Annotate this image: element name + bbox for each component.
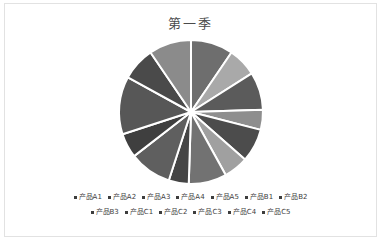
legend-marker-icon — [108, 196, 111, 199]
legend-label: 产品C4 — [233, 209, 256, 216]
legend-label: 产品B1 — [250, 194, 273, 201]
legend-label: 产品C2 — [164, 209, 187, 216]
legend-marker-icon — [262, 211, 265, 214]
pie-chart-svg — [5, 38, 377, 186]
legend-label: 产品A2 — [113, 194, 136, 201]
legend-item[interactable]: 产品A2 — [108, 194, 136, 201]
legend-marker-icon — [279, 196, 282, 199]
legend-marker-icon — [91, 211, 94, 214]
legend-item[interactable]: 产品A1 — [74, 194, 102, 201]
chart-title: 第一季 — [5, 13, 376, 32]
pie-slice-group — [119, 40, 263, 184]
legend-marker-icon — [159, 211, 162, 214]
legend-marker-icon — [142, 196, 145, 199]
legend-marker-icon — [125, 211, 128, 214]
legend-item[interactable]: 产品C3 — [193, 209, 221, 216]
legend-marker-icon — [245, 196, 248, 199]
legend-row: 产品B3产品C1产品C2产品C3产品C4产品C5 — [5, 205, 376, 220]
legend-label: 产品C5 — [267, 209, 290, 216]
legend-item[interactable]: 产品A3 — [142, 194, 170, 201]
legend-marker-icon — [74, 196, 77, 199]
legend-label: 产品C1 — [130, 209, 153, 216]
chart-frame: 第一季 产品A1产品A2产品A3产品A4产品A5产品B1产品B2 产品B3产品C… — [4, 3, 377, 237]
legend-item[interactable]: 产品A5 — [211, 194, 239, 201]
legend-item[interactable]: 产品B1 — [245, 194, 273, 201]
legend-item[interactable]: 产品C4 — [228, 209, 256, 216]
legend-marker-icon — [228, 211, 231, 214]
legend-marker-icon — [211, 196, 214, 199]
pie-chart-area — [5, 38, 376, 186]
legend-item[interactable]: 产品C5 — [262, 209, 290, 216]
legend-item[interactable]: 产品C1 — [125, 209, 153, 216]
legend-label: 产品C3 — [198, 209, 221, 216]
chart-legend: 产品A1产品A2产品A3产品A4产品A5产品B1产品B2 产品B3产品C1产品C… — [5, 190, 376, 220]
legend-item[interactable]: 产品C2 — [159, 209, 187, 216]
legend-item[interactable]: 产品B3 — [91, 209, 119, 216]
legend-marker-icon — [176, 196, 179, 199]
legend-label: 产品A3 — [147, 194, 170, 201]
legend-label: 产品B2 — [284, 194, 307, 201]
legend-label: 产品B3 — [96, 209, 119, 216]
legend-item[interactable]: 产品A4 — [176, 194, 204, 201]
legend-label: 产品A4 — [181, 194, 204, 201]
legend-label: 产品A5 — [216, 194, 239, 201]
legend-row: 产品A1产品A2产品A3产品A4产品A5产品B1产品B2 — [5, 190, 376, 205]
legend-marker-icon — [193, 211, 196, 214]
legend-item[interactable]: 产品B2 — [279, 194, 307, 201]
legend-label: 产品A1 — [79, 194, 102, 201]
